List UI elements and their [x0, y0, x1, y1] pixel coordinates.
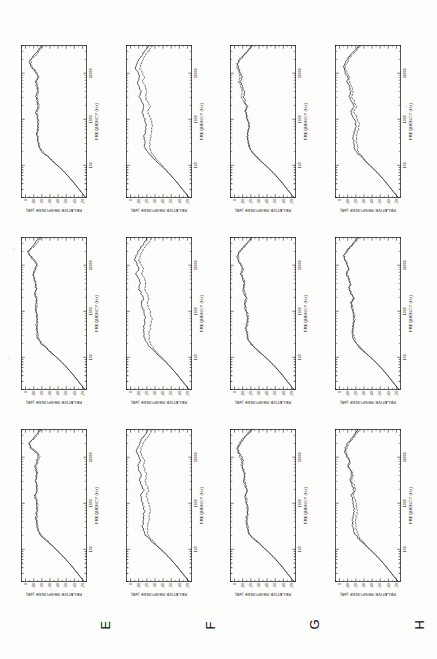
y-tick-label: -70	[394, 391, 398, 396]
y-tick-label: 0	[233, 583, 237, 585]
response-plot: 100100010000FREQUENCY (Hz)0-10-20-30-40-…	[121, 424, 217, 607]
x-axis-label: FREQUENCY (Hz)	[198, 102, 203, 139]
curve-dashed	[28, 237, 84, 389]
y-tick-label: -60	[72, 199, 76, 204]
x-axis-label: FREQUENCY (Hz)	[303, 486, 308, 523]
panel-h3: 100100010000FREQUENCY (Hz)0-10-20-30-40-…	[330, 40, 426, 223]
y-tick-label: -40	[161, 199, 165, 204]
y-tick-label: -60	[177, 391, 181, 396]
x-tick-label: 10000	[298, 68, 302, 78]
y-tick-label: -60	[177, 199, 181, 204]
x-tick-label: 10000	[402, 260, 406, 270]
curve-solid	[27, 237, 84, 389]
plot-frame	[230, 237, 295, 389]
curve-solid	[343, 45, 398, 197]
y-axis-label: RELATIVE RESPONSE (dB)	[234, 400, 291, 405]
y-tick-label: -70	[185, 199, 189, 204]
y-tick-label: -40	[161, 583, 165, 588]
plot-frame	[21, 45, 86, 197]
y-tick-label: -20	[249, 199, 253, 204]
curve-solid	[236, 237, 293, 389]
panel-letter-h: H	[330, 607, 428, 629]
y-tick-label: -70	[185, 391, 189, 396]
panel-e1: 100100010000FREQUENCY (Hz)0-10-20-30-40-…	[16, 424, 112, 607]
panel-letter-f: F	[121, 607, 219, 629]
y-tick-label: -60	[386, 391, 390, 396]
panel-g2: 100100010000FREQUENCY (Hz)0-10-20-30-40-…	[225, 232, 321, 415]
y-tick-label: 0	[128, 391, 132, 393]
x-axis-label: FREQUENCY (Hz)	[303, 294, 308, 331]
x-tick-label: 10000	[402, 452, 406, 462]
panel-g3: 100100010000FREQUENCY (Hz)0-10-20-30-40-…	[225, 40, 321, 223]
y-tick-label: -20	[249, 583, 253, 588]
y-tick-label: -30	[48, 583, 52, 588]
y-axis-label: RELATIVE RESPONSE (dB)	[234, 208, 291, 213]
plot-frame	[230, 429, 295, 581]
y-tick-label: -70	[290, 583, 294, 588]
x-tick-label: 100	[193, 354, 197, 360]
x-tick-label: 100	[298, 546, 302, 552]
curve-dashed	[236, 45, 294, 197]
x-tick-label: 1000	[88, 115, 92, 123]
y-tick-label: -60	[386, 199, 390, 204]
x-tick-label: 1000	[298, 499, 302, 507]
x-axis-label: FREQUENCY (Hz)	[94, 102, 99, 139]
x-tick-label: 10000	[193, 260, 197, 270]
y-tick-label: -50	[169, 583, 173, 588]
panel-row-f: F100100010000FREQUENCY (Hz)0-10-20-30-40…	[121, 29, 217, 629]
y-tick-label: -40	[370, 391, 374, 396]
y-tick-label: -60	[281, 391, 285, 396]
y-axis-label: RELATIVE RESPONSE (dB)	[130, 592, 187, 597]
y-tick-label: -30	[257, 391, 261, 396]
response-plot: 100100010000FREQUENCY (Hz)0-10-20-30-40-…	[225, 40, 321, 223]
x-tick-label: 1000	[402, 307, 406, 315]
y-tick-label: -20	[249, 391, 253, 396]
y-tick-label: -10	[241, 583, 245, 588]
plot-frame	[126, 237, 191, 389]
curve-solid	[133, 237, 188, 389]
x-tick-label: 1000	[298, 307, 302, 315]
x-tick-label: 100	[402, 546, 406, 552]
curve-dashed	[236, 429, 293, 581]
x-tick-label: 10000	[402, 68, 406, 78]
x-tick-label: 100	[88, 546, 92, 552]
x-tick-label: 1000	[193, 115, 197, 123]
y-tick-label: -40	[265, 391, 269, 396]
y-tick-label: -20	[354, 199, 358, 204]
x-tick-label: 10000	[193, 68, 197, 78]
x-axis-label: FREQUENCY (Hz)	[198, 294, 203, 331]
y-tick-label: -10	[136, 199, 140, 204]
curve-solid	[134, 45, 188, 197]
y-tick-label: -50	[378, 199, 382, 204]
y-tick-label: -60	[177, 583, 181, 588]
y-tick-label: -30	[152, 583, 156, 588]
x-tick-label: 10000	[298, 260, 302, 270]
y-tick-label: -10	[136, 583, 140, 588]
y-tick-label: 0	[23, 391, 27, 393]
x-axis-label: FREQUENCY (Hz)	[94, 486, 99, 523]
y-tick-label: 0	[337, 391, 341, 393]
x-tick-label: 1000	[402, 499, 406, 507]
y-tick-label: -20	[144, 199, 148, 204]
y-tick-label: -40	[265, 199, 269, 204]
panel-h1: 100100010000FREQUENCY (Hz)0-10-20-30-40-…	[330, 424, 426, 607]
x-tick-label: 1000	[88, 499, 92, 507]
x-tick-label: 100	[402, 354, 406, 360]
panel-letter-g: G	[225, 607, 323, 629]
y-tick-label: 0	[337, 583, 341, 585]
panel-g1: 100100010000FREQUENCY (Hz)0-10-20-30-40-…	[225, 424, 321, 607]
x-tick-label: 10000	[88, 260, 92, 270]
y-tick-label: -10	[136, 391, 140, 396]
y-tick-label: -70	[80, 391, 84, 396]
y-axis-label: RELATIVE RESPONSE (dB)	[339, 208, 396, 213]
y-tick-label: 0	[23, 583, 27, 585]
x-tick-label: 10000	[88, 68, 92, 78]
x-tick-label: 1000	[193, 307, 197, 315]
scan-speck	[22, 571, 24, 573]
curve-solid	[135, 429, 188, 581]
y-tick-label: -50	[273, 199, 277, 204]
x-axis-label: FREQUENCY (Hz)	[407, 486, 412, 523]
y-tick-label: -50	[273, 391, 277, 396]
curve-dashed	[138, 237, 188, 389]
y-tick-label: 0	[128, 199, 132, 201]
